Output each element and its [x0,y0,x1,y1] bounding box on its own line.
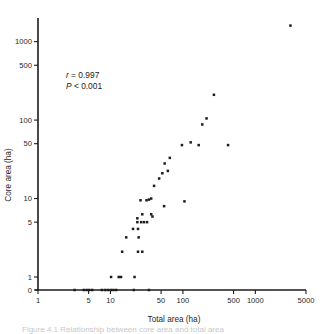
data-point [132,228,135,231]
data-point [183,200,186,203]
data-point [136,221,139,224]
correlation-annotation: r = 0.997 [66,70,100,80]
axes [35,18,306,290]
x-axis-title: Total area (ha) [148,315,201,324]
x-tick-label: 500 [227,296,240,305]
data-point [121,250,124,253]
x-tick-label: 100 [177,296,190,305]
data-point [85,289,88,292]
data-point [148,289,151,292]
data-point [110,276,113,279]
p-value: < 0.001 [72,81,103,91]
data-point [289,24,292,27]
y-tick-label: 500 [19,61,32,70]
data-point [140,221,143,224]
data-point [227,144,230,147]
x-tick-label: 10 [106,296,114,305]
y-tick-label: 5 [28,218,32,227]
data-points [73,24,291,291]
data-point [139,199,142,202]
data-point [148,198,151,201]
data-point [137,250,140,253]
data-point [137,228,140,231]
data-point [169,157,172,160]
data-point [137,236,140,239]
figure-container: 1510501005001000500001510501005001000 To… [0,0,335,334]
data-point [153,185,156,188]
data-point [110,289,113,292]
y-tick-label: 100 [19,116,32,125]
data-point [158,177,161,180]
data-point [151,215,154,218]
y-tick-label: 1 [28,273,32,282]
data-point [189,141,192,144]
tick-labels: 1510501005001000500001510501005001000 [15,37,314,305]
data-point [143,221,146,224]
data-point [141,213,144,216]
statistics-annotation: r = 0.997 P < 0.001 [66,70,102,91]
data-point [141,250,144,253]
figure-caption: Figure 4.1 Relationship between core are… [22,325,224,334]
data-point [205,117,208,120]
data-point [88,289,91,292]
data-point [120,276,123,279]
x-tick-label: 1000 [247,296,264,305]
r-value: = 0.997 [69,70,100,80]
data-point [201,123,204,126]
data-point [107,289,110,292]
data-point [83,289,86,292]
data-point [163,162,166,165]
y-tick-label: 0 [28,286,32,295]
data-point [150,213,153,216]
data-point [197,144,200,147]
data-point [112,289,115,292]
data-point [136,217,139,220]
data-point [115,289,118,292]
data-point [117,276,120,279]
y-tick-label: 50 [24,139,32,148]
y-tick-label: 1000 [15,37,32,46]
data-point [104,289,107,292]
data-point [213,94,216,97]
data-point [133,289,136,292]
data-point [125,236,128,239]
data-point [150,197,153,200]
data-point [161,172,164,175]
data-point [91,289,94,292]
x-tick-label: 5000 [298,296,315,305]
data-point [101,289,104,292]
x-tick-label: 1 [36,296,40,305]
pvalue-annotation: P < 0.001 [66,81,102,91]
x-tick-label: 5 [87,296,91,305]
scatter-plot: 1510501005001000500001510501005001000 To… [0,0,335,334]
data-point [73,289,76,292]
data-point [167,170,170,173]
data-point [181,144,184,147]
data-point [163,205,166,208]
data-point [133,276,136,279]
y-axis-title: Core area (ha) [4,148,13,202]
data-point [145,199,148,202]
y-tick-label: 10 [24,194,32,203]
data-point [146,221,149,224]
x-tick-label: 50 [157,296,165,305]
